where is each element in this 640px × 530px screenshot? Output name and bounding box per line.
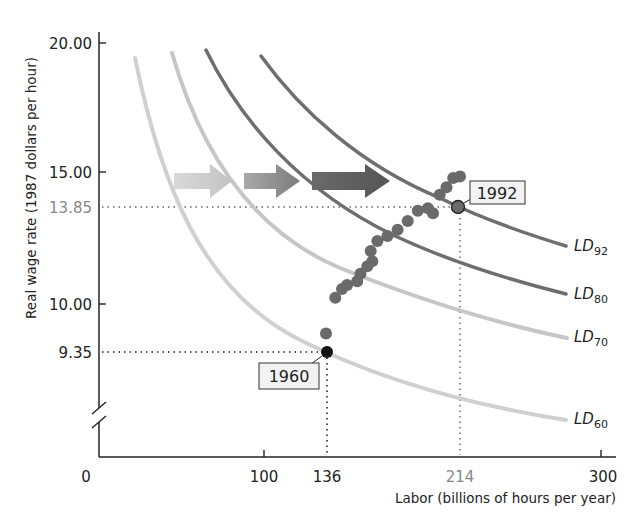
y-tick-labels: 20.00 15.00 13.85 10.00 9.35 (49, 35, 92, 362)
point-1960 (321, 346, 333, 358)
x-tick-0: 0 (81, 468, 91, 486)
year-label-1960: 1960 (259, 356, 322, 389)
y-tick-1385: 13.85 (49, 199, 92, 217)
data-point (365, 245, 377, 257)
year-text-1960: 1960 (269, 367, 310, 386)
data-point (427, 207, 439, 219)
label-ld80: LD80 (574, 285, 608, 306)
demand-curves (135, 50, 567, 420)
data-point (366, 255, 378, 267)
y-tick-10: 10.00 (49, 296, 92, 314)
axes (92, 32, 616, 457)
label-ld60: LD60 (574, 410, 608, 431)
label-ld92: LD92 (574, 237, 608, 258)
x-tick-214: 214 (446, 468, 475, 486)
labor-demand-chart: 1960 1992 20.00 15.00 13.85 10.00 9.35 0… (0, 0, 640, 530)
y-axis-title: Real wage rate (1987 dollars per hour) (23, 57, 39, 319)
data-point (412, 205, 424, 217)
x-tick-136: 136 (313, 468, 342, 486)
label-ld70: LD70 (574, 328, 608, 349)
data-point (392, 224, 404, 236)
curve-ld92 (261, 56, 566, 246)
y-tick-935: 9.35 (59, 344, 92, 362)
x-axis-title: Labor (billions of hours per year) (395, 490, 616, 506)
shift-arrows (174, 164, 390, 198)
x-tick-300: 300 (589, 468, 618, 486)
shift-arrow-medium-icon (244, 164, 300, 198)
y-tick-15: 15.00 (49, 164, 92, 182)
data-point (320, 328, 332, 340)
x-tick-labels: 0 100 136 214 300 (81, 468, 617, 486)
y-tick-20: 20.00 (49, 35, 92, 53)
point-1992 (452, 201, 465, 214)
year-label-1992: 1992 (464, 181, 525, 204)
year-text-1992: 1992 (477, 184, 518, 203)
x-tick-100: 100 (250, 468, 279, 486)
data-point (402, 215, 414, 227)
data-point (454, 171, 466, 183)
curve-ld60 (135, 58, 566, 420)
data-point (382, 230, 394, 242)
